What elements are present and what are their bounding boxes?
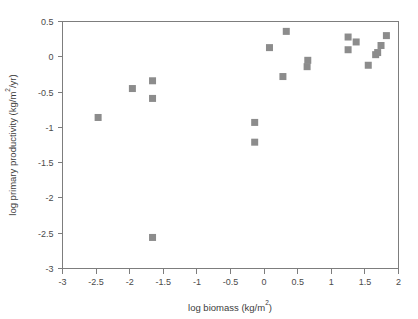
data-point: [304, 57, 311, 64]
x-tick-label: 1: [329, 277, 334, 287]
x-tick-label: 0: [262, 277, 267, 287]
x-tick-label: -2: [126, 277, 134, 287]
x-tick-label: -1.5: [156, 277, 172, 287]
data-point: [304, 63, 311, 70]
y-tick-label: -0.5: [38, 88, 54, 98]
data-point: [266, 44, 273, 51]
x-tick-label: 2: [396, 277, 401, 287]
y-tick-label: -2.5: [38, 229, 54, 239]
data-point: [149, 95, 156, 102]
y-tick-label: -1: [45, 123, 53, 133]
data-point: [251, 139, 258, 146]
axes-group: [63, 22, 399, 269]
data-point: [149, 77, 156, 84]
scatter-plot-svg: -3-2.5-2-1.5-1-0.500.511.52 0.50-0.5-1-1…: [0, 0, 418, 319]
data-point: [283, 28, 290, 35]
data-point: [353, 38, 360, 45]
x-tick-label: -0.5: [223, 277, 239, 287]
data-point: [251, 119, 258, 126]
data-point: [365, 62, 372, 69]
x-tick-label: -1: [193, 277, 201, 287]
data-point: [345, 34, 352, 41]
y-tick-label: -3: [45, 264, 53, 274]
x-tick-label: 0.5: [291, 277, 304, 287]
data-point: [95, 114, 102, 121]
y-tick-label: 0: [48, 52, 53, 62]
plot-frame: [63, 22, 399, 269]
data-point: [345, 46, 352, 53]
y-tick-label: -1.5: [38, 158, 54, 168]
x-tick-label: -3: [58, 277, 66, 287]
scatter-plot-figure: -3-2.5-2-1.5-1-0.500.511.52 0.50-0.5-1-1…: [0, 0, 418, 319]
data-point: [378, 42, 385, 49]
x-axis-title: log biomass (kg/m2): [188, 299, 272, 314]
data-points: [95, 28, 390, 241]
y-tick-label: -2: [45, 193, 53, 203]
data-point: [129, 85, 136, 92]
x-tick-label: -2.5: [88, 277, 104, 287]
x-axis-ticks: -3-2.5-2-1.5-1-0.500.511.52: [58, 269, 401, 287]
data-point: [383, 32, 390, 39]
y-axis-title: log primary productivity (kg/m2/yr): [4, 74, 19, 215]
y-axis-ticks: 0.50-0.5-1-1.5-2-2.5-3: [38, 17, 63, 274]
data-point: [279, 73, 286, 80]
x-tick-label: 1.5: [359, 277, 372, 287]
data-point: [374, 49, 381, 56]
y-tick-label: 0.5: [41, 17, 54, 27]
data-point: [149, 234, 156, 241]
